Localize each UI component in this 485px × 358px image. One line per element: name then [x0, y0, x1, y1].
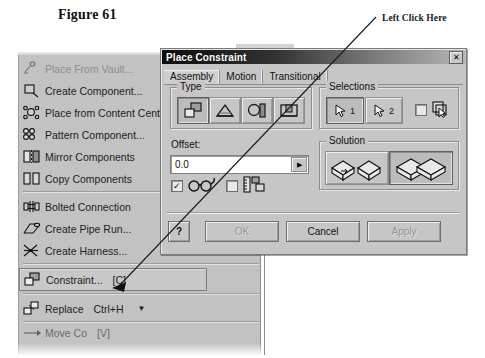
type-group-label: Type — [177, 81, 205, 92]
pattern-component-icon — [19, 126, 45, 144]
cursor-arrow-icon — [374, 104, 386, 118]
menu-separator — [23, 293, 259, 295]
solution-opposed-button[interactable] — [325, 151, 389, 185]
glasses-icon — [187, 177, 217, 196]
menu-item-label: Place From Vault... — [45, 63, 134, 75]
dialog-titlebar[interactable]: Place Constraint ✕ — [162, 50, 465, 64]
select-second-button[interactable]: 2 — [365, 97, 403, 124]
move-component-icon — [19, 326, 45, 340]
dialog-tabs[interactable]: AssemblyMotionTransitional — [164, 67, 463, 85]
show-dimension-checkbox[interactable] — [226, 180, 238, 192]
place-constraint-dialog[interactable]: Place Constraint ✕ AssemblyMotionTransit… — [160, 48, 467, 255]
menu-item-constraint[interactable]: Constraint...[C] — [19, 268, 207, 291]
content-center-icon — [19, 104, 45, 122]
tangent-constraint-button[interactable] — [241, 97, 273, 124]
ok-button[interactable]: OK — [205, 221, 279, 242]
create-pipe-run-icon — [19, 220, 45, 238]
predict-offset-checkbox[interactable]: ✓ — [171, 180, 183, 192]
offset-label: Offset: — [171, 139, 200, 150]
dialog-title: Place Constraint — [162, 52, 247, 63]
cursor-arrow-icon — [335, 104, 347, 118]
menu-item-label: Mirror Components — [45, 151, 135, 163]
menu-item-label: Place from Content Cent — [45, 107, 160, 119]
menu-item-label: Bolted Connection — [45, 201, 131, 213]
select-first-number: 1 — [350, 106, 355, 116]
select-first-button[interactable]: 1 — [326, 97, 364, 124]
menu-item-label: Create Component... — [45, 85, 142, 97]
insert-icon — [279, 102, 299, 119]
angle-icon — [215, 103, 235, 119]
selections-group-label: Selections — [326, 81, 378, 92]
create-component-icon — [19, 82, 45, 100]
constraint-icon — [20, 271, 46, 289]
tab-transitional[interactable]: Transitional — [263, 70, 327, 84]
opposed-boxes-icon — [329, 155, 385, 181]
bolted-connection-icon — [19, 198, 45, 216]
menu-item-shortcut: Ctrl+H — [94, 303, 124, 315]
offset-input[interactable]: 0.0 ▶ — [170, 155, 309, 174]
help-button[interactable]: ? — [168, 221, 190, 242]
menu-item-move-co[interactable]: Move Co[V] — [19, 326, 263, 340]
tangent-icon — [247, 102, 267, 119]
measure-icon — [243, 176, 265, 197]
insert-constraint-button[interactable] — [273, 97, 305, 124]
left-click-here-annotation: Left Click Here — [382, 13, 447, 23]
replace-icon — [19, 300, 45, 318]
screenshot-canvas: Figure 61 Left Click Here Place From Vau… — [0, 0, 485, 358]
menu-separator — [23, 263, 259, 265]
select-second-number: 2 — [389, 106, 394, 116]
menu-separator — [23, 321, 259, 323]
menu-item-shortcut: [V] — [97, 327, 110, 339]
solution-aligned-button[interactable] — [389, 151, 453, 185]
cancel-button[interactable]: Cancel — [286, 221, 360, 242]
apply-button[interactable]: Apply — [367, 221, 441, 242]
copy-components-icon — [19, 170, 45, 188]
menu-item-label: Copy Components — [45, 173, 132, 185]
offset-dropdown-arrow-icon[interactable]: ▶ — [291, 157, 307, 172]
menu-item-label: Create Pipe Run... — [45, 223, 131, 235]
figure-caption: Figure 61 — [58, 7, 117, 23]
menu-item-shortcut: [C] — [113, 274, 126, 286]
tab-motion[interactable]: Motion — [220, 70, 263, 84]
mirror-components-icon — [19, 148, 45, 166]
menu-item-label: Pattern Component... — [45, 129, 145, 141]
pick-part-first-icon — [432, 101, 448, 122]
close-icon[interactable]: ✕ — [449, 51, 463, 64]
mate-constraint-button[interactable] — [177, 97, 209, 124]
menu-bottom-fade — [18, 343, 262, 358]
angle-constraint-button[interactable] — [209, 97, 241, 124]
menu-item-label: Move Co — [45, 327, 87, 339]
menu-item-label: Replace — [45, 303, 84, 315]
aligned-boxes-icon — [393, 155, 449, 181]
pick-part-first-checkbox[interactable] — [415, 104, 427, 116]
place-from-vault-icon — [19, 60, 45, 78]
menu-item-replace[interactable]: ReplaceCtrl+H▼ — [19, 298, 263, 319]
button-bar-divider — [166, 212, 460, 214]
menu-item-label: Constraint... — [46, 274, 103, 286]
solution-group-label: Solution — [326, 135, 368, 146]
chevron-down-icon[interactable]: ▼ — [138, 304, 146, 313]
mate-icon — [184, 102, 203, 119]
menu-item-label: Create Harness... — [45, 245, 127, 257]
background-blank-area — [262, 253, 485, 355]
offset-value: 0.0 — [171, 159, 189, 170]
create-harness-icon — [19, 242, 45, 260]
